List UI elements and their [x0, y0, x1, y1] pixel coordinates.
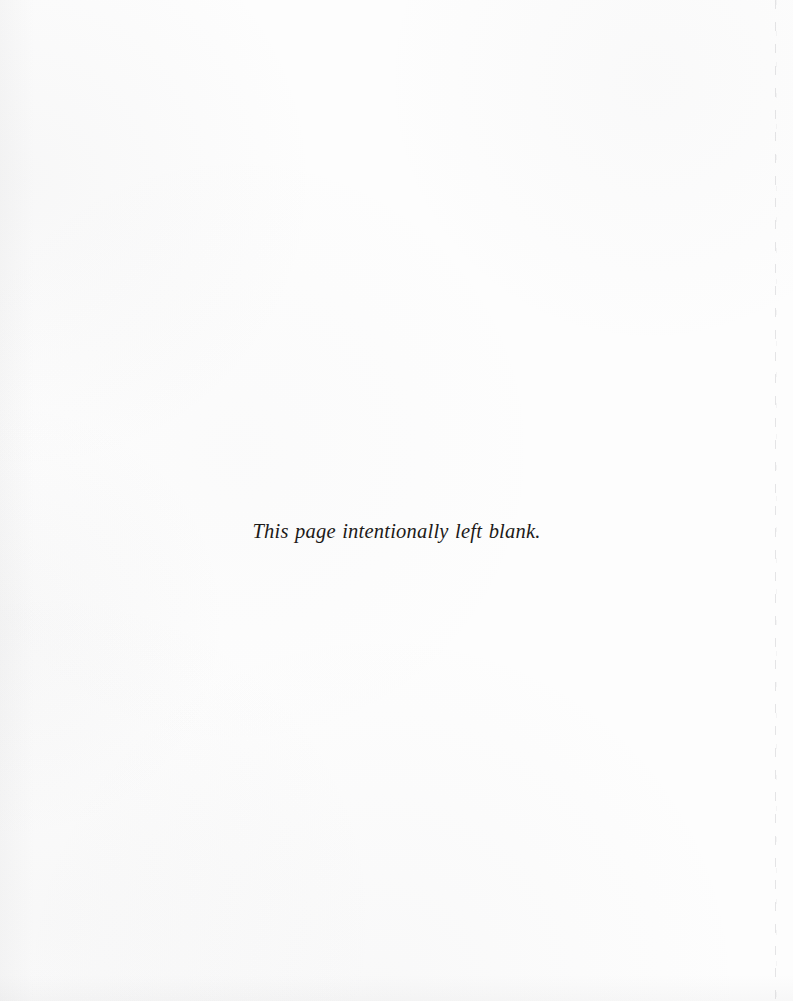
page-edge-scan-line-icon — [775, 0, 776, 1001]
blank-page-notice: This page intentionally left blank. — [0, 519, 793, 545]
page-edge-scan-line-secondary-icon — [776, 0, 777, 1001]
paper-texture — [0, 0, 793, 1001]
scanned-page: This page intentionally left blank. — [0, 0, 793, 1001]
scan-vignette — [0, 0, 793, 1001]
